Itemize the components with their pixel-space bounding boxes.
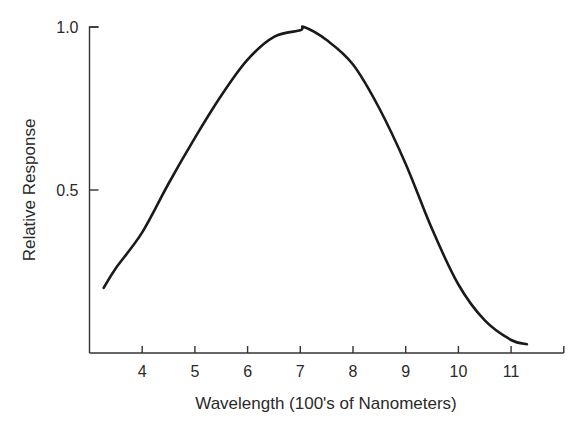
x-tick-label: 9	[401, 363, 410, 380]
x-tick-label: 11	[503, 363, 520, 380]
x-tick-label: 7	[296, 363, 305, 380]
response-curve	[104, 27, 527, 345]
spectral-response-chart: 4567891011 0.51.0 Wavelength (100's of N…	[0, 0, 587, 436]
axes: 4567891011 0.51.0	[56, 19, 564, 380]
x-tick-label: 8	[349, 363, 358, 380]
x-axis-label: Wavelength (100's of Nanometers)	[195, 394, 457, 413]
y-ticks: 0.51.0	[56, 19, 98, 199]
x-tick-label: 5	[190, 363, 199, 380]
y-tick-label: 0.5	[56, 182, 78, 199]
x-tick-label: 4	[138, 363, 147, 380]
y-tick-label: 1.0	[56, 19, 78, 36]
x-tick-label: 6	[243, 363, 252, 380]
y-axis-label: Relative Response	[20, 119, 39, 262]
x-ticks: 4567891011	[138, 346, 564, 380]
x-tick-label: 10	[450, 363, 468, 380]
